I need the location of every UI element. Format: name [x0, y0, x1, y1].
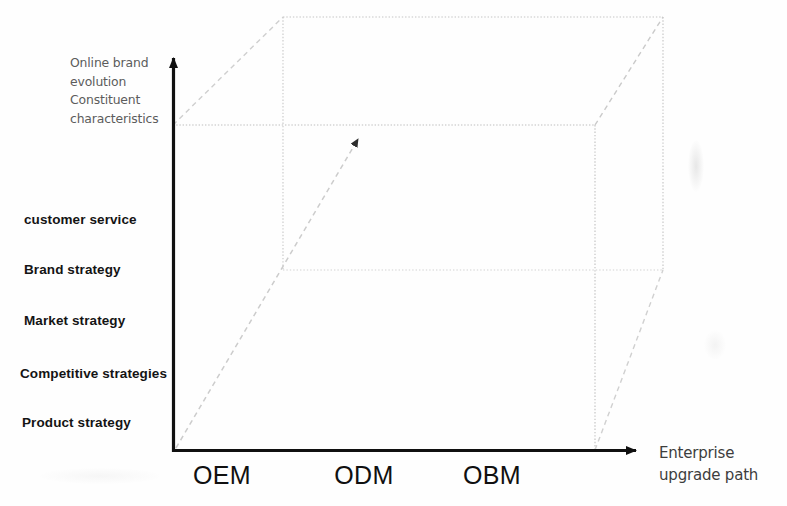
dimension-label-customer-service: customer service: [24, 212, 137, 228]
dimension-label-product-strategy: Product strategy: [22, 415, 131, 431]
stage-label-odm: ODM: [314, 461, 414, 490]
figure-root: Online brand evolution Constituent chara…: [0, 0, 787, 506]
stage-label-oem: OEM: [172, 461, 272, 490]
cube-depth-edges: [173, 17, 663, 450]
progression-arrow: [176, 139, 358, 448]
cube-back-face: [283, 17, 663, 270]
dimension-label-market-strategy: Market strategy: [24, 313, 125, 329]
x-axis-caption: Enterprise upgrade path: [659, 442, 785, 486]
cube-front-face: [173, 125, 595, 450]
dimension-label-competitive-strategies: Competitive strategies: [20, 366, 167, 382]
cube-depth-edge-top-left: [173, 17, 283, 125]
cube-depth-edge-bottom-right: [595, 270, 663, 450]
stage-label-obm: OBM: [442, 461, 542, 490]
dimension-label-brand-strategy: Brand strategy: [24, 262, 121, 278]
cube-depth-edge-top-right: [595, 17, 663, 125]
y-axis-caption: Online brand evolution Constituent chara…: [70, 54, 178, 128]
